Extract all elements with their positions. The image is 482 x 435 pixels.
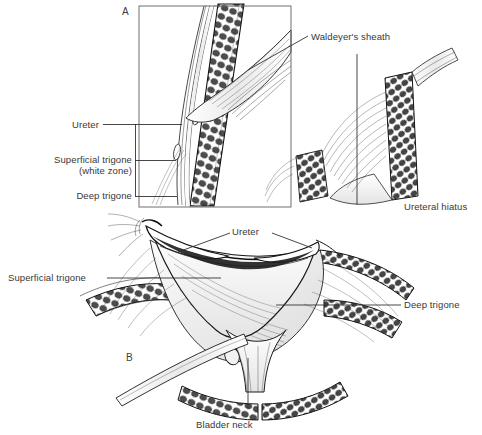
bladder-wall-b-right bbox=[316, 250, 414, 338]
label-ureter-b: Ureter bbox=[232, 226, 259, 238]
panel-label-a: A bbox=[122, 6, 129, 17]
panel-a-artwork bbox=[139, 4, 291, 207]
label-superficial-trigone-b: Superficial trigone bbox=[8, 272, 86, 284]
ureteral-hiatus-artwork bbox=[265, 48, 458, 204]
label-ureter-a: Ureter bbox=[19, 119, 99, 131]
label-bladder-neck: Bladder neck bbox=[196, 419, 253, 431]
leader-ureter-b-right bbox=[272, 233, 312, 248]
bladder-wall-b-left bbox=[80, 278, 174, 316]
leader-ureter-b-left bbox=[178, 233, 230, 252]
label-deep-trigone-a: Deep trigone bbox=[10, 190, 132, 202]
label-deep-trigone-b: Deep trigone bbox=[404, 299, 460, 311]
hiatus-left-wall bbox=[265, 150, 328, 202]
orifice-fan-left bbox=[108, 214, 143, 256]
panel-label-b: B bbox=[126, 352, 133, 363]
label-ureteral-hiatus: Ureteral hiatus bbox=[404, 201, 467, 213]
label-waldeyers-sheath: Waldeyer's sheath bbox=[311, 31, 390, 43]
illustration-canvas bbox=[0, 0, 482, 435]
anatomical-figure: A B Ureter Superficial trigone (white zo… bbox=[0, 0, 482, 435]
panel-b-artwork bbox=[80, 214, 414, 420]
label-superficial-trigone-a: Superficial trigone bbox=[10, 154, 132, 166]
label-white-zone-a: (white zone) bbox=[10, 165, 132, 177]
